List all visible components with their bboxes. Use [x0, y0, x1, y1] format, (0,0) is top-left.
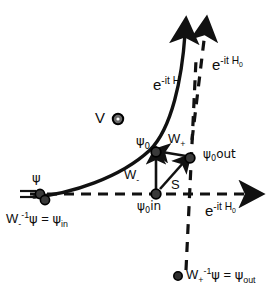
curve-exponent-label: e-it H: [153, 77, 180, 92]
scattering-diagram: e-it H e-it H0 e-it H0 V ψ0 ψ0in ψ0out ψ…: [0, 0, 279, 295]
psi-zero-in-label: ψ0in: [137, 200, 161, 212]
psi-zero-out-label: ψ0out: [203, 148, 236, 160]
incoming-state-equation: W--1ψ = ψin: [6, 212, 68, 225]
node-potential-v: [113, 114, 123, 124]
w-minus-label: W-: [124, 168, 139, 181]
s-label: S: [171, 178, 180, 191]
outgoing-state-equation: W+-1ψ = ψout: [186, 268, 256, 281]
node-psi-in: [40, 195, 49, 204]
horizontal-axis-label: e-it H0: [205, 203, 236, 218]
psi-zero-label: ψ0: [136, 134, 150, 147]
node-psi-zero-in: [151, 189, 161, 199]
node-psi-zero: [151, 147, 161, 157]
node-psi-zero-out: [185, 153, 195, 163]
w-plus-arrow: [162, 152, 186, 156]
node-psi-out: [174, 272, 182, 280]
potential-v-label: V: [95, 110, 105, 125]
interacting-evolution-curve: [34, 34, 185, 197]
vertical-dashed-line: [186, 60, 196, 270]
w-plus-label: W+: [168, 132, 185, 145]
psi-label: ψ: [32, 171, 41, 184]
vertical-axis-label: e-it H0: [212, 57, 243, 72]
